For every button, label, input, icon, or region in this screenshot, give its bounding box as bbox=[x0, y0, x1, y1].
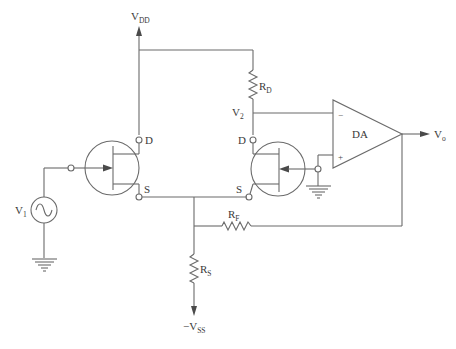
signal-source-v1: V1 bbox=[15, 168, 57, 271]
jfet1-source-label: S bbox=[144, 183, 150, 195]
rs-label: RS bbox=[200, 263, 212, 278]
gate-arrow-icon bbox=[103, 165, 113, 172]
rf-label: RF bbox=[228, 208, 240, 223]
jfet2-source-label: S bbox=[236, 183, 242, 195]
jfet1-drain-label: D bbox=[145, 134, 153, 146]
gate-terminal-1 bbox=[68, 165, 74, 171]
circuit-diagram: VDD RD V2 D S V1 bbox=[0, 0, 456, 349]
non-inverting-input-label: + bbox=[338, 152, 343, 162]
jfet-1: D S bbox=[44, 134, 153, 200]
amplifier-label: DA bbox=[352, 128, 368, 140]
vss-supply: −VSS bbox=[183, 306, 206, 335]
node-v2: V2 bbox=[232, 106, 333, 121]
jfet2-drain-label: D bbox=[238, 134, 246, 146]
arrow-right-icon bbox=[420, 131, 430, 137]
gate-terminal-2 bbox=[315, 166, 321, 172]
drain-terminal-1 bbox=[136, 137, 142, 143]
resistor-rs: RS bbox=[190, 197, 212, 308]
arrow-down-icon bbox=[191, 306, 197, 316]
resistor-rf: RF bbox=[194, 134, 402, 230]
gate-arrow-icon-2 bbox=[279, 166, 289, 173]
vdd-label: VDD bbox=[131, 10, 150, 25]
difference-amplifier: − + DA bbox=[333, 100, 402, 168]
rd-label: RD bbox=[259, 80, 272, 95]
resistor-rd: RD bbox=[249, 50, 272, 135]
vo-label: Vo bbox=[434, 128, 446, 143]
drain-terminal-2 bbox=[250, 137, 256, 143]
inverting-input-label: − bbox=[338, 110, 343, 120]
source-terminal-1 bbox=[136, 194, 142, 200]
v2-label: V2 bbox=[232, 106, 244, 121]
ground-icon bbox=[32, 259, 57, 271]
jfet-2: D S bbox=[236, 134, 333, 200]
v1-label: V1 bbox=[15, 204, 27, 219]
vdd-supply: VDD bbox=[131, 10, 150, 135]
arrow-up-icon bbox=[136, 26, 142, 36]
vss-label: −VSS bbox=[183, 320, 206, 335]
output-vo: Vo bbox=[402, 128, 446, 143]
ground-icon-2 bbox=[306, 186, 331, 198]
sine-wave-icon bbox=[36, 204, 52, 216]
